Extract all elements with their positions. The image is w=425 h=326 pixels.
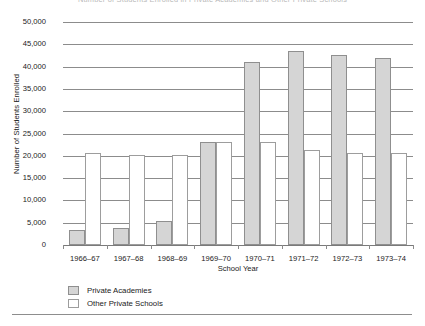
x-axis-tick-label: 1966–67 [63,254,107,263]
legend-swatch-icon [68,286,79,295]
bar-private-academies [331,55,347,245]
bar-other-private-schools [304,150,320,245]
x-axis-tick [369,245,370,249]
x-axis-tick [413,245,414,249]
bar-other-private-schools [347,153,363,245]
bar-other-private-schools [260,142,276,245]
bar-private-academies [113,228,129,245]
y-axis-tick-label: 0 [0,241,46,249]
x-axis-tick [107,245,108,249]
bar-other-private-schools [391,153,407,245]
legend-swatch-icon [68,299,79,308]
x-axis-tick [282,245,283,249]
x-axis-title: School Year [63,264,413,273]
bar-other-private-schools [172,155,188,245]
bar-private-academies [244,62,260,245]
y-axis-tick-label: 5,000 [0,219,46,227]
x-axis-tick [151,245,152,249]
legend-item-label: Other Private Schools [87,299,163,308]
x-axis-tick-label: 1971–72 [282,254,326,263]
bar-other-private-schools [129,155,145,245]
bar-private-academies [288,51,304,245]
x-axis-tick [326,245,327,249]
bar-group: 1970–71 [238,22,282,245]
bar-group: 1966–67 [63,22,107,245]
bar-group: 1967–68 [107,22,151,245]
x-axis-tick-label: 1969–70 [194,254,238,263]
x-axis-tick-label: 1973–74 [369,254,413,263]
bar-group: 1969–70 [194,22,238,245]
bar-other-private-schools [216,142,232,245]
bar-private-academies [156,221,172,245]
bar-private-academies [200,142,216,245]
chart-title-strip: Number of Students Enrolled in Private A… [0,0,425,9]
x-axis-tick [238,245,239,249]
chart-title: Number of Students Enrolled in Private A… [78,0,347,4]
y-axis-tick-label: 25,000 [0,130,46,138]
legend-item: Private Academies [68,284,163,297]
bar-group: 1973–74 [369,22,413,245]
bar-chart: Number of Students Enrolled in Private A… [0,0,425,326]
y-axis-tick-label: 10,000 [0,196,46,204]
bar-other-private-schools [85,153,101,245]
chart-legend: Private AcademiesOther Private Schools [68,284,163,310]
x-axis-tick-label: 1972–73 [326,254,370,263]
x-axis-tick-label: 1970–71 [238,254,282,263]
x-axis-tick-label: 1967–68 [107,254,151,263]
bar-private-academies [375,58,391,245]
legend-item-label: Private Academies [87,286,152,295]
bar-group: 1968–69 [151,22,195,245]
x-axis-tick-label: 1968–69 [151,254,195,263]
y-axis-tick-label: 50,000 [0,18,46,26]
bar-group: 1971–72 [282,22,326,245]
y-axis-title: Number of Students Enrolled [10,1,24,247]
y-axis-tick-label: 30,000 [0,107,46,115]
y-axis-tick-label: 45,000 [0,40,46,48]
bottom-divider [12,314,412,315]
y-axis-tick-label: 40,000 [0,63,46,71]
x-axis-tick [63,245,64,249]
plot-area: 05,00010,00015,00020,00025,00030,00035,0… [63,22,413,245]
bar-group: 1972–73 [326,22,370,245]
y-axis-tick-label: 15,000 [0,174,46,182]
bar-private-academies [69,230,85,245]
x-axis-tick [194,245,195,249]
y-axis-tick-label: 35,000 [0,85,46,93]
legend-item: Other Private Schools [68,297,163,310]
y-axis-tick-label: 20,000 [0,152,46,160]
